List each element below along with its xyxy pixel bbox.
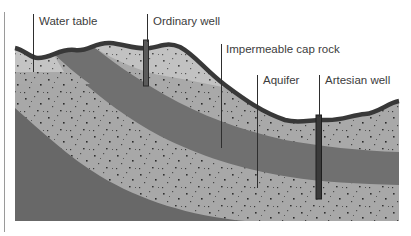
ordinary-well-label: Ordinary well — [153, 15, 220, 28]
artesian-well-leader — [319, 75, 320, 117]
water-table-leader — [33, 14, 34, 72]
cap-rock-label: Impermeable cap rock — [226, 43, 340, 56]
artesian-well-label: Artesian well — [325, 74, 390, 87]
aquifer-label: Aquifer — [263, 74, 299, 87]
ordinary-well-casing — [144, 40, 149, 86]
water-table-label: Water table — [39, 15, 97, 28]
aquifer-leader — [257, 75, 258, 188]
groundwater-cross-section — [0, 0, 411, 236]
ordinary-well-leader — [147, 14, 148, 42]
cap-rock-leader — [221, 44, 222, 148]
artesian-well-casing — [316, 115, 322, 199]
